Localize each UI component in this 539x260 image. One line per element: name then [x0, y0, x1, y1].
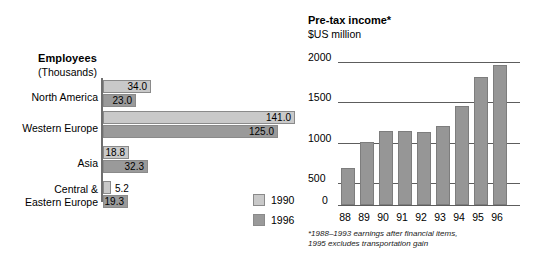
ytick-label-0: 0 — [322, 194, 328, 206]
employees-bar-central-eastern-europe-1990 — [103, 181, 111, 194]
employees-bar-asia-1996: 32.3 — [103, 160, 148, 173]
pretax-bar-92 — [417, 132, 431, 205]
ytick-label-2000: 2000 — [308, 51, 331, 63]
employees-bar-western-europe-1990: 141.0 — [103, 111, 295, 124]
pretax-bar-91 — [398, 131, 412, 205]
employees-bar-value-western-europe-1996: 125.0 — [249, 126, 274, 137]
employees-bar-western-europe-1996: 125.0 — [103, 125, 278, 138]
legend-label-1990: 1990 — [271, 194, 294, 206]
employees-category-label-north-america: North America — [2, 91, 98, 103]
employees-category-label-western-europe: Western Europe — [2, 122, 98, 134]
employees-bar-value-north-america-1990: 34.0 — [128, 81, 147, 92]
employees-bar-value-asia-1990: 18.8 — [106, 147, 125, 158]
pretax-income-chart-subtitle: $US million — [308, 28, 361, 40]
pretax-bar-89 — [360, 142, 374, 205]
legend-swatch-1990 — [253, 194, 265, 206]
employees-bar-value-central-eastern-europe-1996: 19.3 — [105, 196, 124, 207]
employees-category-label-central-eastern-europe-line2: Eastern Europe — [2, 196, 98, 208]
ytick-label-1000: 1000 — [308, 132, 331, 144]
pretax-bar-95 — [474, 77, 488, 205]
employees-bar-value-central-eastern-europe-1990: 5.2 — [115, 183, 129, 194]
employees-category-label-central-eastern-europe-line1: Central & — [2, 183, 98, 195]
pretax-bar-96 — [493, 65, 507, 205]
pretax-bar-90 — [379, 131, 393, 205]
pretax-income-footnote-line1: *1988–1993 earnings after financial item… — [308, 229, 457, 239]
employees-bar-asia-1990: 18.8 — [103, 146, 129, 159]
legend-swatch-1996 — [253, 214, 265, 226]
pretax-bar-94 — [455, 106, 469, 205]
employees-bar-value-asia-1996: 32.3 — [125, 161, 144, 172]
employees-bar-north-america-1990: 34.0 — [103, 80, 151, 93]
pretax-income-footnote: *1988–1993 earnings after financial item… — [308, 229, 457, 249]
employees-chart-title: Employees — [38, 52, 97, 64]
employees-bar-central-eastern-europe-1996: 19.3 — [103, 195, 128, 208]
pretax-income-chart: Pre-tax income* $US million 2000 1500 10… — [300, 0, 539, 260]
legend-label-1996: 1996 — [271, 214, 294, 226]
pretax-bar-93 — [436, 126, 450, 205]
pretax-bars-area — [338, 62, 520, 205]
employees-chart: Employees (Thousands) North America 34.0… — [0, 0, 300, 260]
pretax-income-chart-title: Pre-tax income* — [308, 14, 391, 26]
employees-category-label-asia: Asia — [2, 157, 98, 169]
pretax-income-footnote-line2: 1995 excludes transportation gain — [308, 239, 457, 249]
employees-bar-north-america-1996: 23.0 — [103, 94, 136, 107]
employees-bar-value-western-europe-1990: 141.0 — [266, 112, 291, 123]
employees-bar-value-north-america-1996: 23.0 — [113, 95, 132, 106]
ytick-label-500: 500 — [308, 172, 326, 184]
xtick-label-96: 96 — [486, 211, 508, 223]
pretax-bar-88 — [341, 168, 355, 205]
axis-baseline-0 — [338, 205, 520, 206]
employees-chart-subtitle: (Thousands) — [38, 66, 97, 78]
ytick-label-1500: 1500 — [308, 91, 331, 103]
